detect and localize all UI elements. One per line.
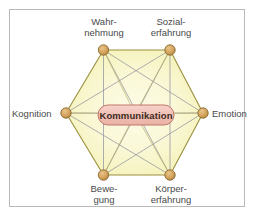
label-sozialerfahrung: Sozial- erfahrung [131,16,211,38]
label-kognition-line1: Kognition [12,108,66,119]
label-sozialerfahrung-line2: erfahrung [131,27,211,38]
node-koerpererfahrung[interactable] [165,170,175,180]
node-bewegung[interactable] [98,170,108,180]
diagram-root: Kommunikation Wahr- nehmung Sozial- erfa… [0,0,268,222]
label-kognition: Kognition [12,108,66,119]
label-emotion-line1: Emotion [212,108,266,119]
label-emotion: Emotion [212,108,266,119]
center-pill [98,105,174,125]
label-sozialerfahrung-line1: Sozial- [131,16,211,27]
node-emotion[interactable] [198,108,208,118]
label-bewegung: Bewe- gung [64,183,144,205]
node-wahrnehmung[interactable] [98,45,108,55]
label-bewegung-line2: gung [64,194,144,205]
node-sozialerfahrung[interactable] [165,45,175,55]
label-bewegung-line1: Bewe- [64,183,144,194]
